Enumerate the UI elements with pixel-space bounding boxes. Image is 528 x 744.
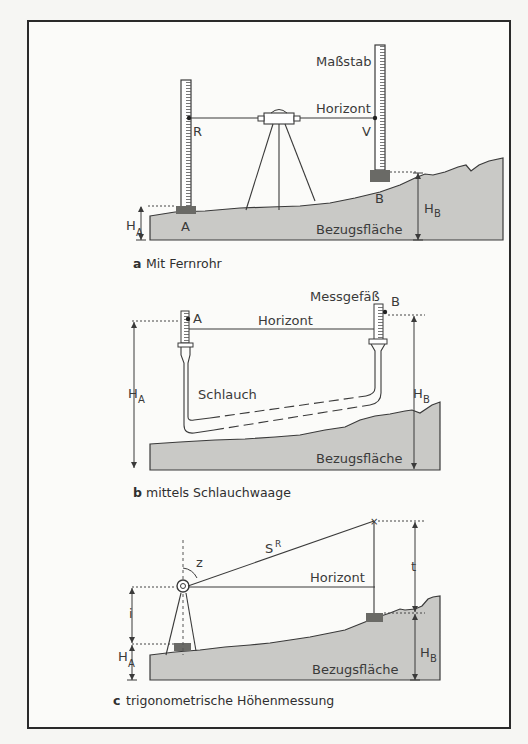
caption-letter-a: a [133, 256, 141, 271]
svg-text:A: A [136, 227, 143, 238]
label-point-b-b: B [391, 294, 400, 309]
label-v: V [362, 124, 371, 139]
label-hb: H [424, 201, 434, 216]
label-i: i [129, 606, 133, 621]
label-ha: H [126, 218, 136, 233]
label-point-b: B [375, 191, 384, 206]
svg-text:R: R [275, 539, 281, 549]
level-instrument [264, 113, 294, 124]
caption-a: Mit Fernrohr [146, 256, 223, 271]
label-t: t [411, 559, 416, 574]
footplate-b [370, 170, 390, 182]
svg-text:A: A [128, 658, 135, 669]
footplate-a [176, 206, 196, 214]
label-ha-c: H [118, 649, 128, 664]
label-horizon-b: Horizont [258, 313, 313, 328]
svg-text:A: A [138, 394, 145, 405]
caption-letter-c: c [113, 693, 120, 708]
label-hose: Schlauch [198, 387, 257, 402]
leveling-diagram: Maßstab Horizont R V A B H A H B Bezugsf… [0, 0, 528, 744]
caption-b: mittels Schlauchwaage [146, 485, 291, 500]
svg-text:B: B [423, 394, 430, 405]
panel-c: × S R z Horizont t i H A H [113, 516, 440, 708]
footplate-c-b [366, 613, 383, 622]
caption-c: trigonometrische Höhenmessung [126, 693, 334, 708]
label-vessel: Messgefäß [310, 289, 380, 304]
label-staff: Maßstab [316, 54, 371, 69]
label-r: R [193, 124, 202, 139]
label-datum-a: Bezugsfläche [316, 222, 403, 237]
label-ha-b: H [128, 386, 138, 401]
label-zenith: z [196, 555, 203, 570]
label-datum-b: Bezugsfläche [316, 451, 403, 466]
label-slope: S [265, 541, 273, 556]
label-datum-c: Bezugsfläche [312, 662, 399, 677]
svg-text:B: B [430, 653, 437, 664]
label-horizon-a: Horizont [316, 101, 371, 116]
label-hb-c: H [420, 645, 430, 660]
label-hb-b: H [413, 386, 423, 401]
caption-letter-b: b [133, 485, 142, 500]
label-horizon-c: Horizont [310, 570, 365, 585]
label-point-a-b: A [193, 311, 202, 326]
label-point-a: A [181, 219, 190, 234]
panel-a: Maßstab Horizont R V A B H A H B Bezugsf… [126, 45, 503, 271]
panel-b: Messgefäß A B Horizont Schlauch H A H B … [128, 289, 440, 500]
svg-text:B: B [434, 208, 441, 219]
